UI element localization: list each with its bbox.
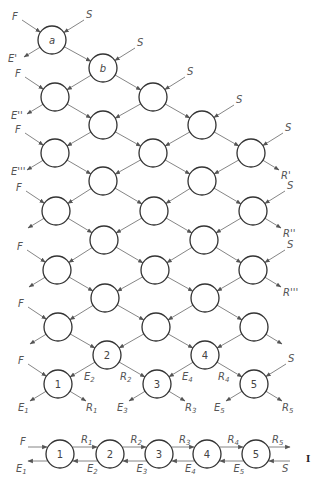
extract-label: E5 [214,402,225,415]
extract-output-arrow [27,160,43,170]
raffinate-flow-arrow [216,247,241,262]
extract-label: E2 [87,463,98,476]
solvent-arrow [64,20,84,33]
stage-number: 3 [154,379,160,390]
solvent-label: S [287,239,294,250]
extract-output-arrow [28,218,44,228]
stage-node-r9c2 [141,256,169,284]
extract-flow-arrow [217,277,241,291]
solvent-label: S [288,353,295,364]
diagram-canvas: ab2413512345 FFFFFFFSSSSSSSSE'E''E'''R'R… [0,0,314,483]
stage-number: 5 [253,449,259,460]
feed-arrow [28,364,46,376]
extract-flow-arrow [67,132,91,146]
stream-labels: FFFFFFFSSSSSSSSE'E''E'''R'R''R'''E1R1E3R… [8,9,298,476]
feed-label: F [15,124,21,135]
extract-flow-arrow [166,188,190,203]
stage-node-r3c2 [139,83,167,111]
stage-node-r6c1 [89,167,117,195]
feed-label: F [18,355,24,366]
extract-flow-arrow [165,132,190,146]
stage-node-r3c0 [41,83,69,111]
page-edge-fragment: I [306,452,310,464]
extract-label: E4 [182,371,193,384]
raffinate-flow-arrow [168,334,193,348]
extract-flow-arrow [70,305,93,319]
raffinate-flow-arrow [115,188,142,204]
solvent-label: S [287,180,294,191]
stage-node-r11c2 [142,313,170,341]
stage-node-r5c2 [139,139,167,167]
solvent-label: S [282,463,289,474]
extract-label: E1 [16,463,27,476]
stage-node-r6c3 [188,167,216,195]
extract-flow-arrow [70,362,95,377]
solvent-arrow [214,105,234,118]
extract-label: E3 [137,463,148,476]
solvent-label: S [285,122,292,133]
raffinate-label: R'' [283,228,295,239]
extract-flow-arrow [116,218,142,233]
raffinate-label: R4 [218,371,229,384]
solvent-label: S [86,9,93,20]
raffinate-flow-arrow [165,104,190,118]
stage-number: 4 [204,449,210,460]
stage-nodes: ab2413512345 [38,26,270,468]
extract-output-arrow [29,277,45,287]
extract-label: E5 [234,463,245,476]
stage-node-r5c4 [237,139,265,167]
feed-arrow [25,133,43,145]
extract-label: E3 [117,402,128,415]
stage-number: 3 [156,449,162,460]
extract-flow-arrow [69,248,92,263]
raffinate-output-arrow [265,218,281,228]
feed-label: F [18,298,24,309]
raffinate-flow-arrow [166,218,192,233]
solvent-arrow [263,133,283,146]
extract-flow-arrow [67,75,91,90]
raffinate-output-arrow [263,160,279,170]
raffinate-flow-arrow [165,160,190,174]
raffinate-flow-arrow [117,305,144,320]
extract-output-arrow [30,334,46,344]
stage-node-r10c1 [91,284,119,312]
extract-flow-arrow [216,218,241,233]
extract-flow-arrow [217,334,242,348]
stage-node-r9c0 [43,256,71,284]
stage-node-r10c3 [191,284,219,312]
solvent-label: S [187,66,194,77]
feed-label: F [20,436,26,447]
raffinate-output-arrow [266,334,282,344]
extract-flow-arrow [169,362,193,377]
stage-number: 2 [104,350,110,361]
stage-node-r4c1 [89,111,117,139]
extract-label: E'' [11,110,23,121]
raffinate-flow-arrow [69,277,93,291]
stage-node-r7c4 [239,197,267,225]
stage-node-r4c3 [188,111,216,139]
stage-node-r5c0 [41,139,69,167]
feed-arrow [28,307,46,319]
raffinate-label: R2 [120,371,132,384]
stage-node-r7c2 [140,197,168,225]
extract-output-arrow [27,104,43,114]
raffinate-label: R2 [131,434,143,447]
raffinate-output-arrow [266,391,282,401]
raffinate-output-arrow [70,391,86,401]
extract-flow-arrow [167,247,192,262]
raffinate-flow-arrow [68,218,92,233]
solvent-arrow [165,77,185,90]
raffinate-flow-arrow [64,47,90,62]
raffinate-label: R''' [283,287,298,298]
raffinate-output-arrow [265,277,281,287]
raffinate-output-arrow [169,391,185,401]
raffinate-label: R1 [86,402,97,415]
feed-arrow [22,20,40,32]
raffinate-flow-arrow [70,334,95,348]
stage-number: 2 [107,449,113,460]
raffinate-flow-arrow [214,132,239,146]
extract-flow-arrow [115,160,141,174]
stage-node-r11c0 [44,313,72,341]
stage-number: a [49,35,55,46]
solvent-arrow [266,364,286,377]
